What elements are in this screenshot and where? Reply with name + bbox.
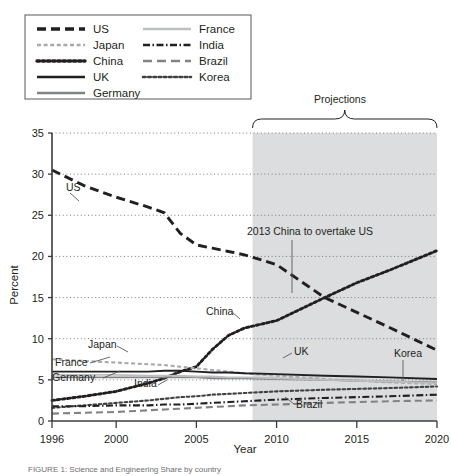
y-tick-label: 0 — [38, 415, 44, 427]
japan-leader-line — [117, 346, 128, 352]
legend-label-brazil: Brazil — [199, 55, 228, 67]
us-leader-line — [70, 193, 79, 201]
x-tick-label: 2020 — [425, 433, 449, 445]
x-tick-label: 2005 — [184, 433, 208, 445]
legend-label-korea: Korea — [199, 71, 230, 83]
y-tick-label: 20 — [32, 250, 44, 262]
projections-label: Projections — [314, 93, 366, 105]
legend-label-france: France — [199, 23, 235, 35]
y-tick-label: 30 — [32, 168, 44, 180]
legend[interactable]: USJapanChinaUKGermanyFranceIndiaBrazilKo… — [25, 15, 251, 99]
x-tick-label: 2000 — [104, 433, 128, 445]
series-label-korea: Korea — [394, 347, 422, 359]
legend-label-uk: UK — [93, 71, 109, 83]
y-tick-label: 10 — [32, 333, 44, 345]
y-tick-label: 35 — [32, 127, 44, 139]
legend-label-china: China — [93, 55, 124, 67]
series-label-us: US — [66, 181, 81, 193]
figure-caption: FIGURE 1: Science and Engineering Share … — [28, 465, 221, 474]
figure-container: 05101520253035 199620002005201020152020 … — [0, 0, 451, 476]
x-tick-labels: 199620002005201020152020 — [40, 421, 449, 445]
legend-label-india: India — [199, 39, 225, 51]
series-label-india: India — [134, 377, 157, 389]
chart-svg: 05101520253035 199620002005201020152020 … — [0, 0, 451, 476]
series-label-china: China — [206, 305, 234, 317]
y-tick-label: 5 — [38, 374, 44, 386]
series-label-uk: UK — [294, 345, 309, 357]
y-axis-title: Percent — [8, 264, 20, 304]
y-tick-label: 15 — [32, 292, 44, 304]
y-tick-labels: 05101520253035 — [32, 127, 52, 427]
x-tick-label: 2015 — [345, 433, 369, 445]
legend-label-germany: Germany — [93, 87, 141, 99]
x-axis-title: Year — [233, 443, 256, 455]
x-tick-label: 2010 — [264, 433, 288, 445]
crossover-note-label: 2013 China to overtake US — [247, 225, 373, 237]
legend-label-us: US — [93, 23, 109, 35]
legend-label-japan: Japan — [93, 39, 124, 51]
series-label-france: France — [55, 356, 88, 368]
series-label-brazil: Brazil — [296, 398, 322, 410]
y-tick-label: 25 — [32, 209, 44, 221]
series-label-germany: Germany — [52, 371, 96, 383]
projections-brace — [253, 110, 437, 128]
series-label-japan: Japan — [88, 338, 117, 350]
x-tick-label: 1996 — [40, 433, 64, 445]
